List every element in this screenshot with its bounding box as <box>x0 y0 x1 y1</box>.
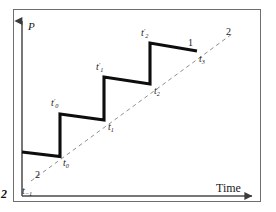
label-t-minus-1-sub: −1 <box>25 190 32 197</box>
label-t-minus-1: t−1 <box>22 186 32 197</box>
label-t2-sub: 2 <box>157 90 160 97</box>
figure-canvas: 2 P Time t−1 t0 t′0 t1 t′1 t2 t′2 t3 1 2… <box>0 0 276 212</box>
label-t3-sub: 3 <box>202 58 205 65</box>
label-t3: t3 <box>199 54 205 65</box>
trend-line-annotation-start: 2 <box>35 170 40 180</box>
label-t2-prime-sub: 2 <box>145 32 148 39</box>
step-curve <box>22 43 197 157</box>
label-t0-sub: 0 <box>66 162 69 169</box>
y-axis-label: P <box>28 21 35 32</box>
label-t1-prime-sub: 1 <box>100 66 103 73</box>
page-number-marker: 2 <box>1 188 7 200</box>
trend-line-annotation-end: 2 <box>226 27 231 37</box>
step-curve-annotation-1: 1 <box>188 38 193 48</box>
label-t2: t2 <box>154 86 160 97</box>
x-axis-label: Time <box>216 182 241 194</box>
label-t0: t0 <box>63 158 69 169</box>
label-t2-prime: t′2 <box>141 28 148 39</box>
label-t1-sub: 1 <box>111 126 114 133</box>
label-t1: t1 <box>108 122 114 133</box>
label-t0-prime-sub: 0 <box>55 102 58 109</box>
label-t0-prime: t′0 <box>51 98 58 109</box>
label-t1-prime: t′1 <box>96 62 103 73</box>
